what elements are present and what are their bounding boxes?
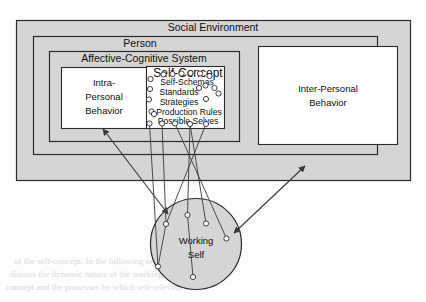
- self-concept-item-strategies: Strategies: [160, 97, 199, 107]
- working-self-node: [163, 221, 168, 226]
- inter-personal-behavior-line-2: Behavior: [309, 97, 347, 108]
- self-concept-node: [187, 121, 192, 126]
- working-self-node: [190, 274, 195, 279]
- bleed-line-3: concept and the processes by which self-…: [6, 282, 182, 292]
- inter-personal-behavior-box: [259, 47, 398, 145]
- working-self-node: [203, 221, 208, 226]
- self-concept-node: [203, 96, 208, 101]
- working-self-node: [224, 236, 229, 241]
- person-label: Person: [123, 37, 156, 49]
- self-concept-node: [179, 71, 184, 76]
- diagram-canvas: of the self-concept. In the following se…: [0, 0, 426, 302]
- social-environment-label: Social Environment: [168, 21, 259, 33]
- working-self-line-1: Working: [179, 235, 214, 246]
- self-concept-node: [203, 121, 208, 126]
- working-self-node: [185, 212, 190, 217]
- self-concept-node: [207, 73, 212, 78]
- intra-personal-behavior-line-2: Personal: [85, 91, 123, 102]
- self-concept-node: [147, 121, 152, 126]
- self-concept-node: [161, 72, 166, 77]
- intra-personal-behavior-line-1: Intra-: [93, 77, 115, 88]
- self-concept-node: [197, 71, 202, 76]
- inter-personal-behavior-line-1: Inter-Personal: [298, 83, 358, 94]
- self-concept-node: [216, 91, 221, 96]
- self-concept-node: [203, 83, 208, 88]
- self-concept-node: [172, 121, 177, 126]
- self-concept-node: [146, 97, 151, 102]
- self-concept-node: [170, 71, 175, 76]
- self-concept-node: [188, 70, 193, 75]
- affective-cognitive-system-label: Affective-Cognitive System: [81, 52, 207, 64]
- intra-personal-behavior-line-3: Behavior: [85, 105, 123, 116]
- self-concept-node: [159, 121, 164, 126]
- self-concept-node: [148, 76, 153, 81]
- self-concept-node: [212, 85, 217, 90]
- self-concept-node: [151, 111, 156, 116]
- self-concept-diagram: of the self-concept. In the following se…: [0, 0, 426, 302]
- self-concept-node: [196, 85, 201, 90]
- bleed-line-2: discuss the dynamic nature of the workin…: [10, 269, 181, 279]
- self-concept-node: [147, 86, 152, 91]
- self-concept-item-standards: Standards: [159, 87, 198, 97]
- working-self-node: [155, 264, 160, 269]
